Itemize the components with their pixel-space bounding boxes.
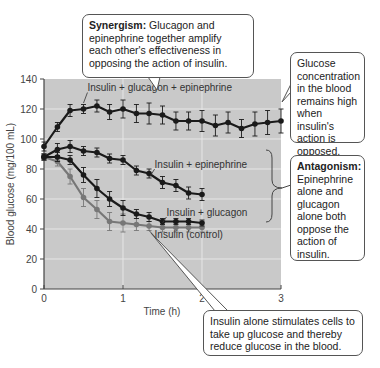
data-point [41,144,47,150]
data-point [81,195,87,201]
data-point [107,156,113,162]
insulin-alone-text: Insulin alone stimulates cells to take u… [210,315,355,352]
data-point [134,211,140,217]
data-point [81,106,87,112]
y-tick-label: 20 [26,254,38,265]
data-point [94,103,100,109]
data-point [81,148,87,154]
series-label: Insulin + glucagon + epinephrine [87,82,232,93]
data-point [120,220,126,226]
data-point [160,112,166,118]
data-point [55,124,61,130]
data-point [81,172,87,178]
data-point [160,180,166,186]
x-tick-label: 1 [120,293,126,304]
x-tick-label: 3 [278,293,284,304]
data-point [107,109,113,115]
data-point [55,147,61,153]
data-point [278,118,284,124]
synergism-title: Synergism: [89,19,146,31]
data-point [67,108,73,114]
data-point [67,144,73,150]
data-point [67,174,73,180]
data-point [213,123,219,129]
data-point [173,118,179,124]
data-point [199,220,205,226]
data-point [186,190,192,196]
data-point [252,121,258,127]
data-point [173,183,179,189]
glucose-high-callout: Glucose concentration in the blood remai… [290,52,365,143]
y-tick-label: 120 [20,104,37,115]
antagonism-callout: Antagonism: Epinephrine alone and glucag… [290,155,365,261]
data-point [67,157,73,163]
data-point [186,118,192,124]
data-point [265,120,271,126]
insulin-alone-callout: Insulin alone stimulates cells to take u… [203,310,363,356]
y-tick-label: 60 [26,194,38,205]
data-point [120,205,126,211]
y-tick-label: 0 [31,284,37,295]
y-tick-label: 140 [20,74,37,85]
series-label: Insulin (control) [155,229,223,240]
data-point [120,157,126,163]
data-point [199,192,205,198]
data-point [94,207,100,213]
synergism-callout: Synergism: Glucagon and epinephrine toge… [82,14,254,78]
data-point [107,219,113,225]
data-point [186,219,192,225]
data-point [199,118,205,124]
data-point [134,222,140,228]
series-label: Insulin + glucagon [166,207,247,218]
y-tick-label: 100 [20,134,37,145]
series-label: Insulin + epinephrine [155,159,248,170]
x-tick-label: 0 [41,293,47,304]
data-point [120,106,126,112]
data-point [146,214,152,220]
data-point [134,111,140,117]
data-point [94,150,100,156]
y-tick-label: 80 [26,164,38,175]
data-point [239,126,245,132]
antagonism-title: Antagonism: [297,160,361,172]
data-point [173,219,179,225]
data-point [94,186,100,192]
x-axis-title: Time (h) [144,306,181,317]
data-point [134,168,140,174]
y-axis-title: Blood glucose (mg/100 mL) [5,123,16,245]
y-tick-label: 40 [26,224,38,235]
antagonism-text: Epinephrine alone and glucagon alone bot… [297,173,353,260]
glucose-high-text: Glucose concentration in the blood remai… [297,57,360,157]
data-point [146,111,152,117]
data-point [146,223,152,229]
data-point [225,120,231,126]
data-point [107,196,113,202]
data-point [41,154,47,160]
